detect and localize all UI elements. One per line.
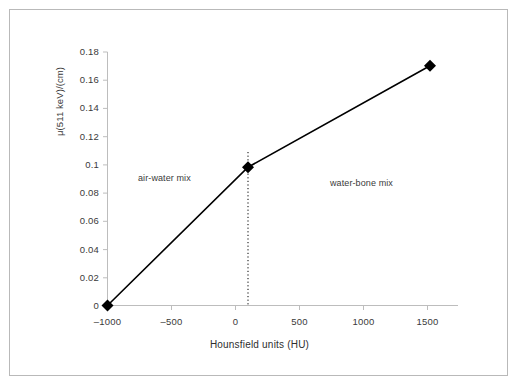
- x-tick-label: 0: [206, 316, 266, 327]
- x-tick-label: 1500: [398, 316, 458, 327]
- y-tick-label: 0: [57, 300, 99, 311]
- figure-container: 0.18 0.16 0.14 0.12 0.1 0.08 0.06 0.04 0…: [0, 0, 519, 386]
- y-axis-title: μ(511 keV)/(cm): [54, 120, 65, 136]
- x-tick-label: –1000: [78, 316, 138, 327]
- y-tick-label: 0.18: [57, 46, 99, 57]
- x-tick-label: –500: [142, 316, 202, 327]
- y-tick-label: 0.1: [57, 159, 99, 170]
- y-tick-label: 0.04: [57, 244, 99, 255]
- y-tick-label: 0.08: [57, 187, 99, 198]
- data-point-marker: [424, 60, 436, 72]
- y-tick-label: 0.02: [57, 272, 99, 283]
- x-tick-label: 500: [270, 316, 330, 327]
- plot-area: 0.18 0.16 0.14 0.12 0.1 0.08 0.06 0.04 0…: [0, 0, 519, 386]
- y-axis-ticks: [103, 52, 108, 306]
- x-axis-ticks: [108, 306, 428, 311]
- annotation-air-water-mix: air-water mix: [138, 173, 191, 183]
- x-tick-label: 1000: [334, 316, 394, 327]
- x-axis-title: Hounsfield units (HU): [0, 339, 519, 350]
- y-tick-label: 0.06: [57, 215, 99, 226]
- annotation-water-bone-mix: water-bone mix: [330, 178, 393, 188]
